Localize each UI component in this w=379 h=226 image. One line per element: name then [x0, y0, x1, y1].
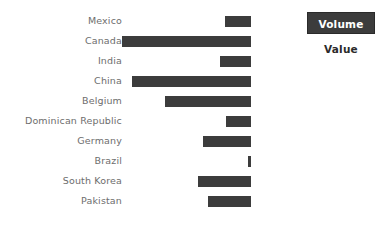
bar[interactable] — [226, 116, 251, 127]
bar-category-label: India — [0, 51, 122, 71]
legend-item-value[interactable]: Value — [307, 40, 375, 58]
bar-track — [122, 131, 379, 151]
bar-track — [122, 171, 379, 191]
bar[interactable] — [165, 96, 251, 107]
bar-category-label: Dominican Republic — [0, 111, 122, 131]
bar-category-label: South Korea — [0, 171, 122, 191]
bar-category-label: Belgium — [0, 91, 122, 111]
bar-chart: MexicoCanadaIndiaChinaBelgiumDominican R… — [0, 0, 379, 226]
bar-track — [122, 71, 379, 91]
bar[interactable] — [225, 16, 251, 27]
bar-category-label: Pakistan — [0, 191, 122, 211]
bar-category-label: Mexico — [0, 11, 122, 31]
bar-row: Germany — [0, 131, 379, 151]
chart-legend: Volume Value — [307, 12, 377, 64]
bar-row: South Korea — [0, 171, 379, 191]
bar[interactable] — [203, 136, 251, 147]
bar-row: Dominican Republic — [0, 111, 379, 131]
bar-track — [122, 111, 379, 131]
bar-category-label: Canada — [0, 31, 122, 51]
legend-item-volume[interactable]: Volume — [307, 12, 375, 34]
bar-row: Belgium — [0, 91, 379, 111]
bar[interactable] — [208, 196, 251, 207]
bar[interactable] — [122, 36, 251, 47]
bar-category-label: China — [0, 71, 122, 91]
bar-row: Brazil — [0, 151, 379, 171]
bar-track — [122, 151, 379, 171]
bar-row: China — [0, 71, 379, 91]
bar-category-label: Germany — [0, 131, 122, 151]
bar-track — [122, 91, 379, 111]
bar[interactable] — [132, 76, 251, 87]
bar[interactable] — [220, 56, 251, 67]
bar-category-label: Brazil — [0, 151, 122, 171]
bar-track — [122, 191, 379, 211]
bar[interactable] — [248, 156, 251, 167]
bar[interactable] — [198, 176, 251, 187]
bar-row: Pakistan — [0, 191, 379, 211]
